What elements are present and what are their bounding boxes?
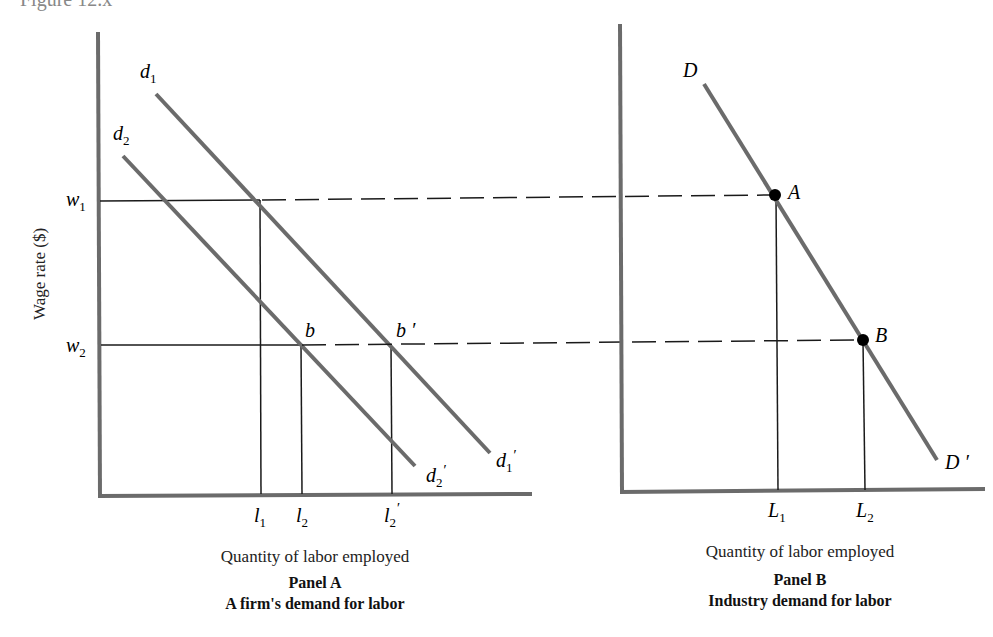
industry-demand-curve <box>704 84 937 460</box>
panel-b-subtitle: Industry demand for labor <box>708 592 891 610</box>
label-d1: d1 <box>140 60 157 86</box>
panel-a-y-axis-label: Wage rate ($) <box>30 228 49 320</box>
label-D-prime: D ′ <box>944 451 969 473</box>
tick-w2: w2 <box>66 334 86 360</box>
panel-b-x-axis-label: Quantity of labor employed <box>706 542 895 561</box>
panel-a-y-axis <box>98 32 100 497</box>
point-A-label: A <box>786 181 801 203</box>
point-A <box>769 189 781 201</box>
l1-guide-line <box>260 200 261 494</box>
panel-a-title: Panel A <box>289 574 342 591</box>
label-D: D <box>682 59 698 81</box>
panel-a: Wage rate ($) d1 d2 d1′ d2′ b b ′ w1 w2 … <box>30 32 532 612</box>
labor-demand-diagram: Wage rate ($) d1 d2 d1′ d2′ b b ′ w1 w2 … <box>0 0 993 637</box>
L2-guide-line <box>863 341 865 490</box>
demand-curve-d2 <box>123 156 415 466</box>
label-d1-prime: d1′ <box>496 447 517 475</box>
panel-a-subtitle: A firm's demand for labor <box>225 595 404 612</box>
tick-l1: l1 <box>254 504 266 530</box>
panel-b: D D ′ A B L1 L2 Quantity of labor employ… <box>620 24 985 610</box>
panel-b-x-axis <box>620 489 985 492</box>
w1-dashed-connector <box>262 195 770 200</box>
tick-l2-prime: l2′ <box>384 500 400 530</box>
point-b-label: b <box>305 319 315 341</box>
point-B <box>857 334 869 346</box>
l2-prime-guide-line <box>391 344 392 494</box>
demand-curve-d1 <box>156 94 490 453</box>
label-d2: d2 <box>113 122 130 148</box>
point-B-label: B <box>875 324 887 346</box>
panel-b-y-axis <box>620 24 622 493</box>
tick-L2: L2 <box>855 499 874 525</box>
panel-a-x-axis <box>98 494 532 496</box>
tick-w1: w1 <box>66 188 86 214</box>
tick-l2: l2 <box>296 504 308 530</box>
label-d2-prime: d2′ <box>426 462 447 490</box>
panel-b-title: Panel B <box>774 571 827 588</box>
point-b-prime-label: b ′ <box>396 319 416 341</box>
l2-guide-line <box>301 345 302 494</box>
L1-guide-line <box>776 196 778 490</box>
w1-guide-line <box>100 200 260 201</box>
panel-a-x-axis-label: Quantity of labor employed <box>221 547 410 566</box>
tick-L1: L1 <box>767 499 786 525</box>
